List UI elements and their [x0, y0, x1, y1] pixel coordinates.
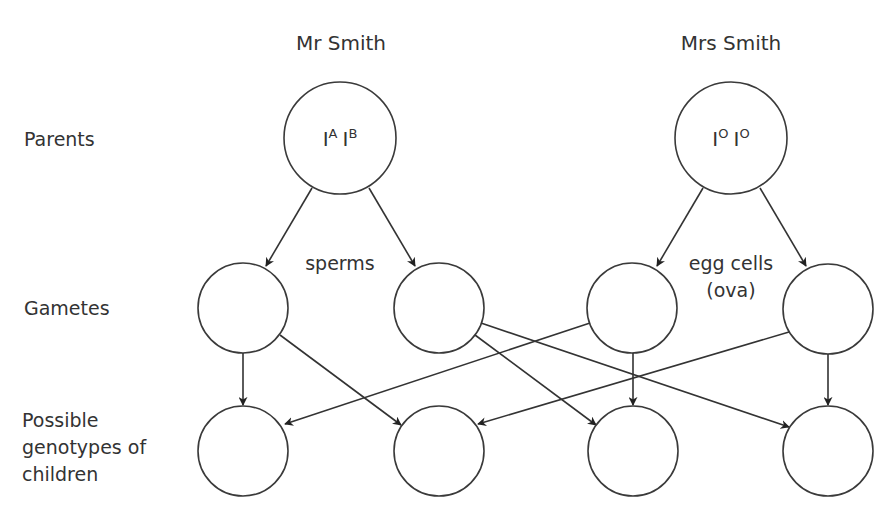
father-name: Mr Smith [296, 31, 386, 55]
row-label-children-line3: children [22, 463, 98, 485]
child-genotype-4 [783, 406, 873, 496]
father-allele-2-sup: B [348, 126, 357, 141]
child-genotype-1 [198, 406, 288, 496]
child-genotype-2 [394, 406, 484, 496]
mother-allele-1-sup: O [718, 126, 728, 141]
genetic-cross-diagram: Mr Smith Mrs Smith Parents Gametes Possi… [0, 0, 891, 514]
father-allele-1-sup: A [329, 126, 338, 141]
arrow-sperm-2-to-child-3 [475, 335, 596, 425]
arrow-sperm-1-to-child-2 [280, 335, 401, 425]
gamete-sperm-1 [198, 263, 288, 353]
row-label-parents: Parents [24, 128, 95, 150]
row-label-children-line2: genotypes of [22, 436, 147, 458]
mother-genotype-node: IOIO [675, 82, 787, 194]
arrow-father-to-sperm-2 [369, 188, 415, 266]
father-genotype-node: IAIB [284, 82, 396, 194]
egg-cells-label: egg cells [689, 252, 773, 274]
ova-label: (ova) [706, 279, 755, 301]
mother-allele-2-sup: O [739, 126, 749, 141]
mother-name: Mrs Smith [681, 31, 782, 55]
sperms-label: sperms [305, 252, 375, 274]
row-label-children-line1: Possible [22, 409, 99, 431]
gamete-egg-2 [783, 264, 873, 354]
row-label-gametes: Gametes [24, 297, 110, 319]
gamete-egg-1 [587, 263, 677, 353]
child-genotype-3 [588, 406, 678, 496]
gamete-sperm-2 [394, 263, 484, 353]
